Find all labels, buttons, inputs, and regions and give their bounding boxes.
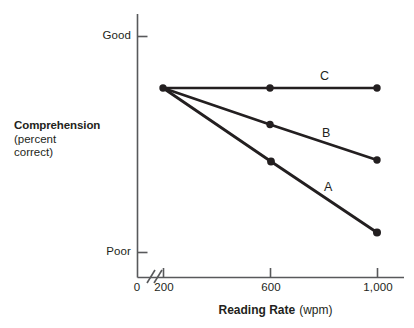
x-tick-label-600: 600 <box>253 281 289 293</box>
series-label-c: C <box>320 69 329 83</box>
y-axis-title-main: Comprehension <box>14 119 132 133</box>
series-b-point-600 <box>266 121 273 128</box>
chart-plot-area <box>0 0 414 328</box>
y-axis-title-sub-line1: (percent <box>14 133 132 147</box>
chart-container: Good Poor 0 200 600 1,000 C B A Comprehe… <box>0 0 414 328</box>
x-tick-label-200: 200 <box>146 281 182 293</box>
series-label-a: A <box>324 180 332 194</box>
series-c-point-1000 <box>373 84 380 91</box>
series-label-b: B <box>322 126 330 140</box>
y-tick-label-poor: Poor <box>78 245 131 257</box>
x-tick-label-1000: 1,000 <box>356 281 400 293</box>
series-a-point-1000 <box>373 229 381 237</box>
y-axis-title-sub-line2: correct) <box>14 146 132 160</box>
y-tick-label-good: Good <box>78 29 131 41</box>
series-b-point-1000 <box>373 156 380 163</box>
y-axis-title: Comprehension (percent correct) <box>14 119 132 160</box>
x-axis-title-main: Reading Rate <box>218 303 295 317</box>
x-axis-title: Reading Rate(wpm) <box>137 303 414 317</box>
series-a-point-600 <box>267 158 275 166</box>
x-axis-title-sub: (wpm) <box>299 303 332 317</box>
series-c-point-600 <box>266 84 273 91</box>
